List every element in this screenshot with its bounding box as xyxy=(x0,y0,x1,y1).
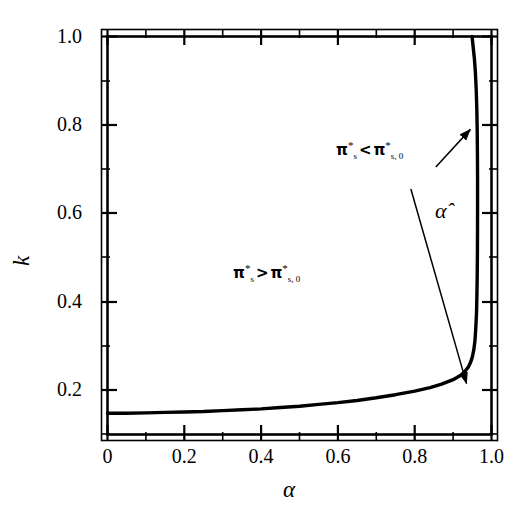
y-tick-label-2: 0.8 xyxy=(22,113,82,136)
lower-star-1: * xyxy=(245,262,251,274)
lower-pi-2: π xyxy=(270,264,282,282)
upper-pi-2: π xyxy=(373,141,385,159)
lower-relation: > xyxy=(254,264,271,282)
region-label-lower: π*s>π*s, 0 xyxy=(233,262,300,284)
curve-label-alpha-hat: α̂ xyxy=(435,198,447,224)
upper-relation: < xyxy=(357,141,374,159)
upper-pi-1: π xyxy=(336,141,348,159)
x-tick-label-5: 0.8 xyxy=(385,445,445,468)
lower-pi-1: π xyxy=(233,264,245,282)
y-tick-label-4: 0.4 xyxy=(22,290,82,313)
upper-sub-2: s, 0 xyxy=(391,151,404,161)
x-tick-label-4: 0.6 xyxy=(308,445,368,468)
upper-star-2: * xyxy=(385,139,391,151)
lower-sub-2: s, 0 xyxy=(288,274,301,284)
upper-star-1: * xyxy=(348,139,354,151)
lower-star-2: * xyxy=(282,262,288,274)
x-tick-label-2: 0.2 xyxy=(154,445,214,468)
y-tick-label-1: 1.0 xyxy=(22,25,82,48)
x-axis-title: α xyxy=(283,477,295,503)
x-tick-label-1: 0 xyxy=(78,445,138,468)
x-tick-label-3: 0.4 xyxy=(231,445,291,468)
region-label-upper: π*s<π*s, 0 xyxy=(336,139,403,161)
y-tick-label-3: 0.6 xyxy=(22,201,82,224)
y-axis-title: k xyxy=(9,256,35,266)
y-tick-label-5: 0.2 xyxy=(22,378,82,401)
x-tick-label-6: 1.0 xyxy=(462,445,522,468)
